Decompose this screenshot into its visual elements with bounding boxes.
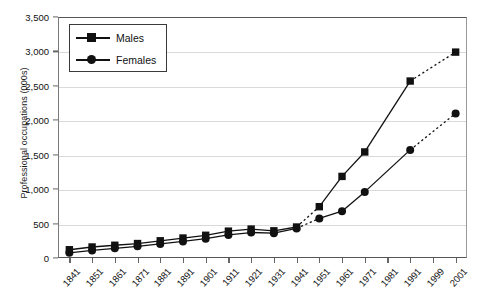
x-tick-label: 1999: [424, 266, 446, 288]
x-tick-label: 1991: [402, 266, 424, 288]
x-tick-label: 1911: [220, 266, 241, 288]
gridline: [59, 87, 466, 88]
square-marker-icon: [87, 33, 96, 42]
x-tick-label: 1981: [379, 266, 401, 288]
x-tick-label: 1841: [61, 266, 83, 288]
x-tick-label: 1861: [106, 266, 128, 288]
y-tick-mark: [53, 154, 58, 155]
x-tick-mark: [183, 258, 184, 263]
x-tick-mark: [160, 258, 161, 263]
y-tick-label: 3,000: [3, 46, 49, 57]
x-tick-label: 2001: [447, 266, 469, 288]
x-tick-mark: [365, 258, 366, 263]
y-tick-label: 0: [3, 253, 49, 264]
x-tick-mark: [297, 258, 298, 263]
x-tick-mark: [433, 258, 434, 263]
x-tick-label: 1961: [333, 266, 355, 288]
professional-occupations-chart: Professional occupations (000s) Males Fe…: [0, 0, 489, 297]
gridline: [59, 225, 466, 226]
chart-legend: Males Females: [69, 24, 167, 72]
y-tick-label: 1,000: [3, 184, 49, 195]
x-tick-mark: [456, 258, 457, 263]
gridline: [59, 121, 466, 122]
legend-entry-females: Females: [76, 52, 156, 68]
y-tick-mark: [53, 51, 58, 52]
x-tick-label: 1941: [288, 266, 310, 288]
x-tick-label: 1951: [311, 266, 333, 288]
legend-entry-males: Males: [76, 30, 144, 46]
y-tick-label: 2,500: [3, 80, 49, 91]
gridline: [59, 156, 466, 157]
x-tick-mark: [92, 258, 93, 263]
y-tick-mark: [53, 120, 58, 121]
x-tick-mark: [410, 258, 411, 263]
x-tick-label: 1871: [129, 266, 151, 288]
legend-label-males: Males: [116, 32, 144, 44]
x-tick-mark: [342, 258, 343, 263]
y-tick-mark: [53, 85, 58, 86]
x-tick-label: 1921: [243, 266, 265, 288]
y-tick-label: 3,500: [3, 12, 49, 23]
x-tick-label: 1851: [83, 266, 105, 288]
y-tick-label: 1,500: [3, 149, 49, 160]
legend-line-females: [76, 59, 110, 60]
y-tick-mark: [53, 223, 58, 224]
x-tick-mark: [69, 258, 70, 263]
x-tick-label: 1971: [356, 266, 378, 288]
y-tick-mark: [53, 16, 58, 17]
x-tick-mark: [251, 258, 252, 263]
circle-marker-icon: [87, 55, 96, 64]
gridline: [59, 190, 466, 191]
x-tick-mark: [115, 258, 116, 263]
x-tick-label: 1901: [197, 266, 219, 288]
legend-line-males: [76, 37, 110, 38]
x-tick-label: 1931: [265, 266, 287, 288]
x-tick-mark: [206, 258, 207, 263]
y-tick-label: 2,000: [3, 115, 49, 126]
x-tick-label: 1881: [152, 266, 174, 288]
y-tick-label: 500: [3, 218, 49, 229]
x-tick-label: 1891: [174, 266, 196, 288]
x-tick-mark: [228, 258, 229, 263]
y-tick-mark: [53, 189, 58, 190]
x-tick-mark: [387, 258, 388, 263]
x-tick-mark: [319, 258, 320, 263]
x-tick-mark: [138, 258, 139, 263]
legend-label-females: Females: [116, 54, 156, 66]
y-tick-mark: [53, 257, 58, 258]
x-tick-mark: [274, 258, 275, 263]
